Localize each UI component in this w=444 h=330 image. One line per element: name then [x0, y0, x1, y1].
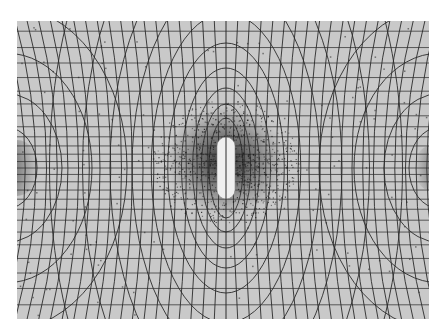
- right-edge-dark-region: [415, 146, 429, 190]
- field-line-diagram: [17, 21, 429, 319]
- field-diagram-svg: [17, 21, 429, 319]
